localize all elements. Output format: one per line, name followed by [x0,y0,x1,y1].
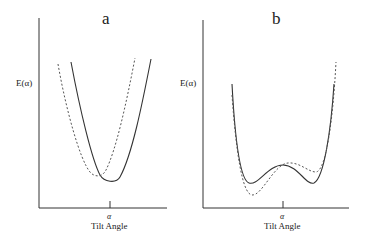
panel-a-axes [39,18,167,208]
panel-a-title: a [102,9,110,29]
figure-canvas [0,0,366,243]
panel-b-ylabel: E(α) [180,78,196,88]
panel-b-xlabel: Tilt Angle [264,221,300,231]
panel-b-tick-label: α [280,212,284,221]
panel-b-axes [203,20,349,208]
panel-a-solid-curve [71,59,151,181]
panel-a-dashed-curve [58,58,135,176]
panel-b-dashed-curve [232,62,336,195]
panel-a-ylabel: E(α) [16,78,32,88]
panel-b-solid-curve [232,84,334,183]
panel-a-xlabel: Tilt Angle [91,221,127,231]
panel-b-title: b [272,9,281,29]
panel-a-tick-label: α [107,212,111,221]
